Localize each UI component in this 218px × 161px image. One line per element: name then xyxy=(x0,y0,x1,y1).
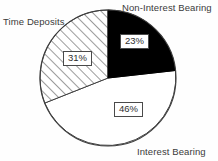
pie-chart-figure: Non-Interest Bearing Time Deposits Inter… xyxy=(0,0,218,161)
pie-label-time-deposits: Time Deposits xyxy=(3,17,65,27)
pie-label-non-interest-bearing: Non-Interest Bearing xyxy=(122,3,212,13)
pie-label-interest-bearing: Interest Bearing xyxy=(137,147,206,157)
pie-value-non-interest-bearing: 23% xyxy=(120,34,149,49)
pie-value-interest-bearing: 46% xyxy=(114,102,143,117)
pie-value-time-deposits: 31% xyxy=(63,51,92,66)
